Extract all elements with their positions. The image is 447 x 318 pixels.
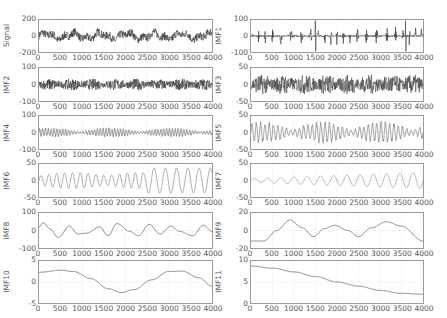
x-tick-label: 3000 [157,54,181,62]
y-axis-label: IMF7 [214,160,223,200]
subplot-imf7 [250,163,424,198]
x-tick-label: 1500 [92,199,116,207]
y-axis-label: IMF6 [2,160,11,200]
y-tick-label: 200 [14,15,36,23]
x-tick-label: 2500 [135,151,159,159]
x-tick-label: 1500 [92,250,116,258]
x-tick-label: 500 [48,250,72,258]
subplot-imf6 [38,163,213,198]
x-tick-label: 500 [260,250,284,258]
subplot-imf11 [250,260,424,304]
x-tick-label: 3500 [179,199,203,207]
x-tick-label: 500 [48,103,72,111]
x-tick-label: 3000 [369,54,393,62]
x-tick-label: 1500 [303,54,327,62]
x-tick-label: 1000 [282,103,306,111]
x-tick-label: 2000 [114,250,138,258]
y-tick-label: 50 [226,63,248,71]
y-tick-label: 5 [226,278,248,286]
y-axis-label: IMF5 [214,112,223,152]
x-tick-label: 1000 [282,199,306,207]
x-tick-label: 2000 [325,151,349,159]
x-tick-label: 3000 [369,151,393,159]
y-tick-label: 0 [14,129,36,137]
x-tick-label: 1000 [70,103,94,111]
x-tick-label: 2500 [135,54,159,62]
x-tick-label: 1500 [303,199,327,207]
x-tick-label: 4000 [412,199,436,207]
y-axis-label: IMF3 [214,64,223,104]
subplot-imf5 [250,115,424,150]
x-tick-label: 4000 [412,54,436,62]
x-tick-label: 2500 [135,199,159,207]
x-tick-label: 3000 [157,103,181,111]
x-tick-label: 0 [26,199,50,207]
x-tick-label: 500 [260,305,284,313]
y-tick-label: 0 [226,177,248,185]
x-tick-label: 4000 [201,305,225,313]
y-tick-label: 50 [226,111,248,119]
x-tick-label: 1000 [282,54,306,62]
x-tick-label: 3500 [390,199,414,207]
x-tick-label: 2000 [114,151,138,159]
x-tick-label: 3000 [157,305,181,313]
y-tick-label: 0 [226,227,248,235]
x-tick-label: 0 [26,54,50,62]
x-tick-label: 4000 [412,103,436,111]
x-tick-label: 4000 [412,250,436,258]
x-tick-label: 2000 [325,250,349,258]
x-tick-label: 2000 [325,305,349,313]
x-tick-label: 2500 [347,305,371,313]
x-tick-label: 500 [260,103,284,111]
x-tick-label: 500 [48,151,72,159]
x-tick-label: 1000 [282,305,306,313]
y-tick-label: 100 [14,111,36,119]
y-tick-label: 50 [14,159,36,167]
x-tick-label: 500 [260,54,284,62]
x-tick-label: 2000 [114,305,138,313]
x-tick-label: 1000 [70,151,94,159]
x-tick-label: 2000 [325,54,349,62]
x-tick-label: 3500 [179,54,203,62]
x-tick-label: 4000 [412,305,436,313]
x-tick-label: 2500 [347,250,371,258]
y-tick-label: 10 [226,256,248,264]
x-tick-label: 500 [48,54,72,62]
x-tick-label: 1500 [92,54,116,62]
x-tick-label: 3500 [179,305,203,313]
x-tick-label: 4000 [201,250,225,258]
x-tick-label: 1000 [282,250,306,258]
x-tick-label: 2000 [114,103,138,111]
x-tick-label: 1500 [303,250,327,258]
x-tick-label: 2500 [135,103,159,111]
x-tick-label: 3000 [157,250,181,258]
x-tick-label: 3500 [390,54,414,62]
x-tick-label: 3500 [179,103,203,111]
x-tick-label: 1000 [70,250,94,258]
y-axis-label: IMF11 [214,262,223,302]
y-tick-label: 5 [14,256,36,264]
x-tick-label: 2500 [135,305,159,313]
x-tick-label: 2500 [347,199,371,207]
x-tick-label: 1500 [303,305,327,313]
x-tick-label: 2500 [347,103,371,111]
subplot-imf2 [38,67,213,102]
x-tick-label: 2500 [347,151,371,159]
x-tick-label: 1000 [70,305,94,313]
y-axis-label: IMF9 [214,210,223,250]
y-tick-label: 0 [14,32,36,40]
x-tick-label: 3500 [390,151,414,159]
subplot-imf4 [38,115,213,150]
y-tick-label: 100 [14,208,36,216]
x-tick-label: 3500 [390,103,414,111]
x-tick-label: 1500 [303,151,327,159]
x-tick-label: 3500 [179,151,203,159]
x-tick-label: 2000 [114,199,138,207]
x-tick-label: 500 [48,305,72,313]
x-tick-label: 1000 [70,199,94,207]
x-tick-label: 0 [26,305,50,313]
y-tick-label: 100 [14,63,36,71]
y-tick-label: 0 [14,278,36,286]
subplot-imf3 [250,67,424,102]
x-tick-label: 3000 [369,199,393,207]
